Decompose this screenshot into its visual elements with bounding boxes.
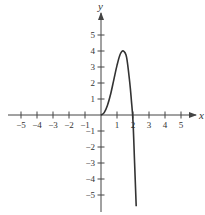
x-tick-label: −5 [16, 120, 26, 130]
y-tick-label: 3 [91, 62, 96, 72]
y-tick-label: −2 [85, 142, 95, 152]
graph: xy−5−4−3−2−11234554321−1−2−3−4−5 [0, 0, 205, 215]
y-axis-label: y [97, 0, 103, 12]
x-tick-label: −4 [32, 120, 42, 130]
y-tick-label: −4 [85, 174, 95, 184]
y-tick-label: 4 [91, 46, 96, 56]
y-tick-label: −5 [85, 190, 95, 200]
x-tick-label: 1 [115, 120, 120, 130]
y-tick-label: −1 [85, 126, 95, 136]
x-tick-label: −3 [48, 120, 58, 130]
y-tick-label: −3 [85, 158, 95, 168]
y-tick-label: 5 [91, 30, 96, 40]
x-tick-label: 4 [163, 120, 168, 130]
x-axis-label: x [198, 109, 204, 121]
y-tick-label: 1 [91, 94, 96, 104]
x-tick-label: −2 [64, 120, 74, 130]
x-tick-label: 3 [147, 120, 152, 130]
y-tick-label: 2 [91, 78, 96, 88]
x-tick-label: 5 [179, 120, 184, 130]
